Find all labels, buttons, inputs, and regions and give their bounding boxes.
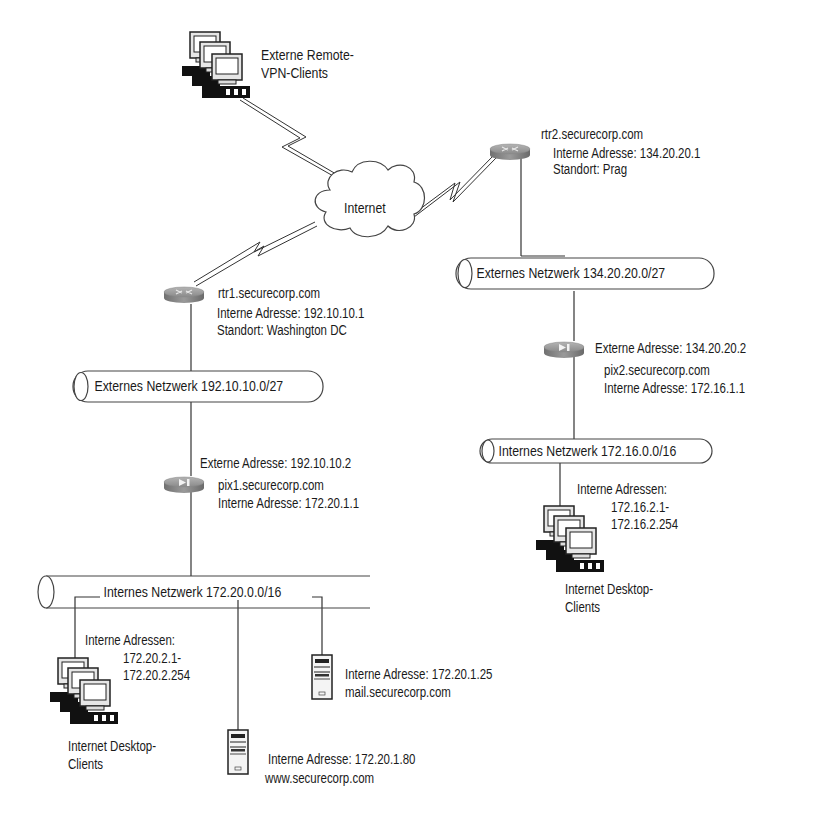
- mail-server-tower-icon: [312, 655, 332, 699]
- desktops-2-address-from: 172.16.2.1-: [611, 499, 669, 516]
- vpn-clients-workstation-cluster-icon: [182, 32, 250, 98]
- desktops-2-label-line1: Internet Desktop-: [565, 581, 653, 598]
- desktops-1-workstation-cluster-icon: [50, 658, 118, 724]
- desktops-1-address-to: 172.20.2.254: [123, 667, 190, 684]
- pix2-firewall-icon: [544, 342, 584, 358]
- external-network-1-label: Externes Netzwerk 192.10.10.0/27: [92, 377, 286, 394]
- vpn-clients-label-line2: VPN-Clients: [261, 64, 328, 82]
- desktops-1-address-from: 172.20.2.1-: [123, 650, 181, 667]
- desktops-2-address-to: 172.16.2.254: [611, 516, 678, 533]
- web-server-hostname: www.securecorp.com: [265, 770, 374, 787]
- desktops-1-address-title: Interne Adressen:: [85, 632, 175, 649]
- rtr2-address: Interne Adresse: 134.20.20.1: [553, 145, 700, 162]
- pix2-internal-address: Interne Adresse: 172.16.1.1: [604, 380, 745, 397]
- desktops-1-label-line2: Clients: [68, 756, 103, 773]
- web-server-address: Interne Adresse: 172.20.1.80: [268, 751, 415, 768]
- mail-server-address: Interne Adresse: 172.20.1.25: [345, 666, 492, 683]
- vpn-clients-label-line1: Externe Remote-: [261, 46, 354, 64]
- desktops-1-label-line1: Internet Desktop-: [68, 738, 156, 755]
- desktops-2-workstation-cluster-icon: [536, 506, 604, 572]
- pix1-firewall-icon: [164, 477, 204, 493]
- pix1-hostname: pix1.securecorp.com: [218, 477, 324, 494]
- internet-label: Internet: [344, 199, 386, 217]
- rtr1-address: Interne Adresse: 192.10.10.1: [217, 305, 364, 322]
- rtr1-router-icon: [164, 287, 204, 303]
- mail-server-hostname: mail.securecorp.com: [345, 684, 451, 701]
- pix2-hostname: pix2.securecorp.com: [604, 362, 710, 379]
- rtr1-hostname: rtr1.securecorp.com: [218, 285, 320, 302]
- pix2-external-address: Externe Adresse: 134.20.20.2: [595, 340, 746, 357]
- rtr2-location: Standort: Prag: [553, 161, 627, 178]
- rtr2-hostname: rtr2.securecorp.com: [541, 126, 643, 143]
- desktops-2-address-title: Interne Adressen:: [577, 481, 667, 498]
- pix1-external-address: Externe Adresse: 192.10.10.2: [200, 455, 351, 472]
- internal-network-1-label: Internes Netzwerk 172.20.0.0/16: [101, 583, 284, 600]
- pix1-internal-address: Interne Adresse: 172.20.1.1: [218, 495, 359, 512]
- web-server-tower-icon: [228, 730, 248, 774]
- desktops-2-label-line2: Clients: [565, 599, 600, 616]
- rtr1-location: Standort: Washington DC: [217, 322, 347, 339]
- external-network-2-label: Externes Netzwerk 134.20.20.0/27: [474, 264, 668, 281]
- internal-network-2-label: Internes Netzwerk 172.16.0.0/16: [496, 442, 679, 459]
- rtr2-router-icon: [490, 144, 530, 160]
